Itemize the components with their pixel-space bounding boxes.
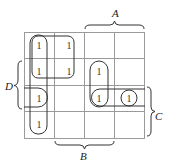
cell-one-r0c1: 1 <box>67 40 72 51</box>
kmap-grid <box>25 33 145 139</box>
label-b: B <box>80 150 87 162</box>
karnaugh-map: 1 1 1 1 1 1 1 1 1 A B C D <box>0 0 171 168</box>
cell-one-r2c3: 1 <box>127 93 132 104</box>
cell-one-r0c0: 1 <box>37 40 42 51</box>
brace-b <box>55 141 114 149</box>
cell-one-r2c2: 1 <box>97 93 102 104</box>
cell-one-r2c0: 1 <box>37 93 42 104</box>
brace-c <box>147 87 155 136</box>
label-d: D <box>4 80 13 92</box>
brace-d <box>14 61 22 109</box>
brace-a <box>85 21 144 29</box>
cell-one-r1c0: 1 <box>37 66 42 77</box>
label-c: C <box>155 110 163 122</box>
cell-one-r3c0: 1 <box>37 119 42 130</box>
cell-one-r1c1: 1 <box>67 66 72 77</box>
cell-one-r1c2: 1 <box>97 66 102 77</box>
label-a: A <box>111 7 119 19</box>
